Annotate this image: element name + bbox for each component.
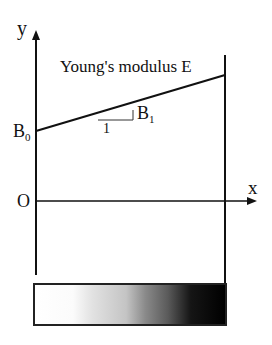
run-label: 1 [103,122,110,136]
y-axis-arrow-icon [32,30,40,40]
gradient-bar [33,283,227,326]
slope-label-main: B [137,103,149,123]
x-axis-arrow-icon [247,197,257,205]
y-axis-label: y [17,18,27,38]
intercept-label: B0 [13,122,31,143]
intercept-label-main: B [13,121,25,141]
modulus-line [36,75,225,131]
curve-title: Young's modulus E [60,58,192,75]
slope-label: B1 [137,104,155,125]
x-axis-label: x [248,178,258,197]
origin-label: O [17,192,30,210]
slope-label-sub: 1 [149,113,155,125]
intercept-label-sub: 0 [25,131,31,143]
